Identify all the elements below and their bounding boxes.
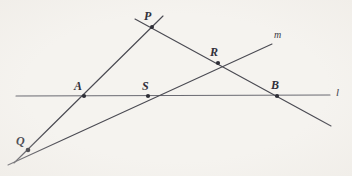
line-label-l: l	[336, 87, 339, 98]
line-pb	[135, 19, 331, 126]
point-dot-B	[275, 94, 279, 98]
line-m	[8, 44, 272, 165]
diagram-canvas	[0, 0, 352, 176]
point-dot-Q	[26, 148, 31, 153]
line-label-m: m	[274, 30, 281, 40]
geometry-diagram: P R A S B Q l m	[0, 0, 352, 176]
line-l	[16, 95, 330, 96]
point-label-Q: Q	[16, 135, 25, 147]
line-qp	[14, 16, 163, 163]
point-label-A: A	[74, 80, 82, 92]
point-label-R: R	[210, 46, 218, 58]
point-label-P: P	[144, 10, 151, 22]
point-dot-R	[216, 61, 220, 65]
point-dot-A	[82, 94, 86, 98]
point-label-S: S	[142, 80, 149, 92]
point-label-B: B	[271, 79, 279, 91]
point-dot-S	[146, 94, 150, 98]
point-dot-P	[150, 25, 154, 29]
